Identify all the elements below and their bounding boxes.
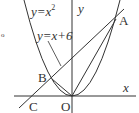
coordinate-diagram: y=x2 y=x+6 y x A B C O o: [0, 0, 139, 113]
label-leader-line: [48, 41, 61, 66]
point-A-label: A: [119, 13, 129, 28]
origin-label: O: [61, 99, 70, 113]
y-axis-label: y: [76, 1, 84, 16]
segment-OA: [72, 19, 116, 96]
segment-OB: [52, 79, 72, 96]
point-C-label: C: [29, 99, 38, 113]
line-equation-label: y=x+6: [35, 28, 73, 43]
parabola-equation-label: y=x2: [29, 3, 55, 19]
small-circle-marker: o: [1, 31, 5, 39]
x-axis-label: x: [122, 80, 129, 95]
point-B-label: B: [38, 70, 47, 85]
